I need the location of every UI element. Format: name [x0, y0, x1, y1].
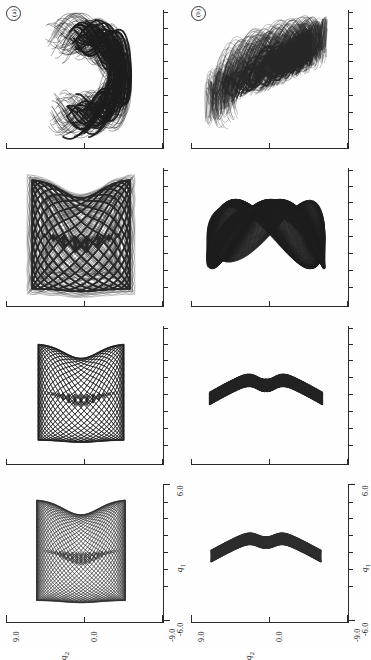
tick-q1	[163, 445, 168, 446]
trajectory-plot-a-1	[6, 6, 156, 146]
tick-label-q1-min: -6.0	[361, 623, 370, 636]
tick-q2	[162, 459, 163, 464]
panel-a-3	[0, 316, 185, 474]
tick-q2	[347, 143, 348, 148]
panel-a-1	[0, 0, 185, 158]
panel-b-3	[185, 316, 370, 474]
tick-q1	[163, 202, 168, 203]
tick-q1	[348, 518, 353, 519]
tick-q2	[347, 459, 348, 464]
tick-q1	[348, 428, 353, 429]
tick-q1	[348, 411, 353, 412]
tick-q1	[348, 78, 353, 79]
tick-q1	[163, 95, 168, 96]
tick-q1	[348, 202, 353, 203]
tick-q1	[163, 253, 168, 254]
tick-q1	[163, 236, 168, 237]
tick-q1	[348, 170, 353, 171]
tick-q1	[348, 44, 353, 45]
tick-q2-min	[162, 615, 163, 622]
trajectory-plot-a-3	[6, 322, 156, 462]
axis-line-q1-b-3	[348, 326, 349, 464]
tick-q2	[191, 459, 192, 464]
tick-q1	[348, 287, 353, 288]
tick-q1-max	[163, 484, 170, 485]
tick-q1	[348, 502, 353, 503]
axis-line-q2-a-2	[6, 306, 164, 307]
tick-q2	[6, 143, 7, 148]
tick-q1-min	[163, 620, 170, 621]
tick-q1	[163, 377, 168, 378]
axis-line-q2-b-2	[191, 306, 349, 307]
tick-q1	[163, 535, 168, 536]
tick-q2	[6, 301, 7, 306]
tick-q1	[163, 394, 168, 395]
tick-q1	[163, 569, 168, 570]
panel-b-2	[185, 158, 370, 316]
tick-q2-mid	[269, 617, 270, 622]
tick-q1	[348, 377, 353, 378]
tick-q1	[163, 12, 168, 13]
plot-area-a-2	[6, 164, 156, 304]
figure-column-b: (b)	[185, 0, 370, 646]
tick-q1	[348, 270, 353, 271]
tick-q1	[348, 552, 353, 553]
trajectory-plot-b-1	[191, 6, 341, 146]
tick-q2	[269, 459, 270, 464]
tick-q1	[348, 186, 353, 187]
tick-q1	[163, 502, 168, 503]
tick-q1	[163, 129, 168, 130]
trajectory-plot-b-4	[191, 480, 341, 620]
tick-label-q1-max: 6.0	[176, 485, 185, 496]
tick-label-q2-mid: 0.0	[275, 631, 284, 642]
axis-line-q2-b-4	[191, 622, 349, 623]
tick-q1	[348, 95, 353, 96]
axis-line-q1-a-4	[163, 484, 164, 622]
axis-title-q2: q2	[243, 652, 255, 660]
tick-q1	[163, 552, 168, 553]
tick-q1	[163, 186, 168, 187]
tick-q2-max	[6, 615, 7, 622]
tick-q1	[348, 236, 353, 237]
tick-label-q1-max: 6.0	[361, 485, 370, 496]
axis-title-q1: q1	[359, 564, 371, 572]
axis-line-q2-b-3	[191, 464, 349, 465]
axis-line-q1-b-1	[348, 10, 349, 148]
trajectory-plot-a-2	[6, 164, 156, 304]
tick-q2-max	[191, 615, 192, 622]
tick-q2	[162, 143, 163, 148]
tick-q2	[84, 459, 85, 464]
tick-q1	[163, 170, 168, 171]
axis-line-q1-b-2	[348, 168, 349, 306]
axis-title-q2: q2	[58, 652, 70, 660]
figure-column-a: (a)	[0, 0, 185, 646]
tick-q1	[348, 394, 353, 395]
tick-q1	[348, 28, 353, 29]
tick-q2	[191, 143, 192, 148]
tick-label-q2-mid: 0.0	[90, 631, 99, 642]
plot-area-a-4	[6, 480, 156, 620]
tick-q1	[163, 219, 168, 220]
tick-q1	[348, 569, 353, 570]
axis-line-q2-b-1	[191, 148, 349, 149]
tick-q2	[6, 459, 7, 464]
axis-line-q2-a-4	[6, 622, 164, 623]
trajectory-plot-b-2	[191, 164, 341, 304]
axis-line-q1-a-1	[163, 10, 164, 148]
tick-q1	[348, 445, 353, 446]
tick-q1	[348, 12, 353, 13]
tick-q1-max	[348, 484, 355, 485]
axis-line-q1-a-2	[163, 168, 164, 306]
tick-q2-mid	[84, 617, 85, 622]
tick-q1	[163, 586, 168, 587]
tick-label-q2-min: -9.0	[353, 629, 362, 642]
tick-q2	[191, 301, 192, 306]
tick-q1	[348, 344, 353, 345]
axis-line-q1-a-3	[163, 326, 164, 464]
tick-q1	[348, 360, 353, 361]
tick-q1	[163, 360, 168, 361]
tick-q1	[348, 535, 353, 536]
panel-a-4: 6.0 -6.0 q1 9.0 0.0 -9.0 q2	[0, 474, 185, 632]
tick-q1	[348, 253, 353, 254]
